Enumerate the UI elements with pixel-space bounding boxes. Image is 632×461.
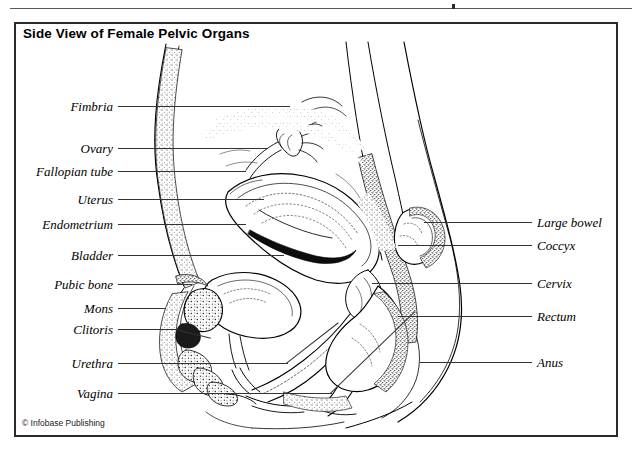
label-rectum: Rectum: [537, 310, 576, 323]
top-tick-mark: [452, 4, 455, 9]
leader-vagina: [118, 393, 332, 394]
leader-cervix: [372, 283, 532, 284]
label-coccyx: Coccyx: [537, 239, 575, 252]
figure-page: Side View of Female Pelvic Organs: [0, 0, 632, 461]
copyright-credit: © Infobase Publishing: [22, 418, 105, 428]
leader-fallopian-tube: [118, 171, 246, 172]
leader-endometrium: [118, 224, 246, 225]
leader-rectum: [398, 316, 532, 317]
label-fallopian-tube: Fallopian tube: [36, 165, 113, 178]
leader-pubic-bone: [118, 284, 192, 285]
label-cervix: Cervix: [537, 277, 572, 290]
figure-title: Side View of Female Pelvic Organs: [23, 26, 250, 41]
leader-urethra: [118, 363, 288, 364]
leader-ovary: [118, 148, 268, 149]
label-clitoris: Clitoris: [73, 323, 113, 336]
leader-anus: [420, 362, 532, 363]
leader-coccyx: [398, 245, 532, 246]
leader-uterus: [118, 199, 264, 200]
leader-mons: [118, 308, 166, 309]
label-ovary: Ovary: [81, 142, 114, 155]
label-pubic-bone: Pubic bone: [54, 278, 113, 291]
label-endometrium: Endometrium: [42, 218, 113, 231]
label-large-bowel: Large bowel: [537, 216, 602, 229]
label-mons: Mons: [84, 302, 113, 315]
leader-clitoris: [118, 329, 178, 330]
leader-fimbria: [118, 106, 290, 107]
label-bladder: Bladder: [71, 249, 113, 262]
leader-large-bowel: [424, 222, 532, 223]
top-divider-rule: [10, 8, 632, 9]
label-urethra: Urethra: [72, 357, 113, 370]
leader-bladder: [118, 255, 284, 256]
label-uterus: Uterus: [78, 193, 113, 206]
label-anus: Anus: [537, 356, 563, 369]
label-vagina: Vagina: [77, 387, 113, 400]
label-fimbria: Fimbria: [70, 100, 113, 113]
